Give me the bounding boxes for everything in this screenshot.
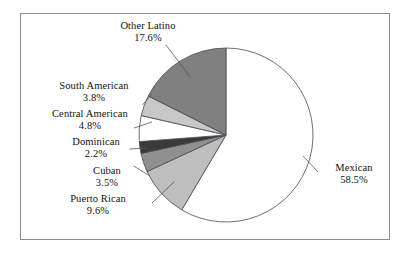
slice-label-cuban: Cuban 3.5% <box>62 165 152 189</box>
slice-label-name: Cuban <box>62 165 152 177</box>
slice-label-value: 58.5% <box>322 174 386 186</box>
slice-label-name: South American <box>35 80 153 92</box>
pie-slices-group <box>139 48 313 222</box>
slice-label-name: Other Latino <box>88 20 208 32</box>
slice-label-other-latino: Other Latino 17.6% <box>88 20 208 44</box>
slice-label-name: Mexican <box>322 162 386 174</box>
pie-chart-figure: Other Latino 17.6% South American 3.8% C… <box>0 0 411 258</box>
slice-label-value: 3.8% <box>35 92 153 104</box>
slice-label-dominican: Dominican 2.2% <box>44 136 148 160</box>
slice-label-central-american: Central American 4.8% <box>26 108 154 132</box>
slice-label-name: Puerto Rican <box>42 193 154 205</box>
slice-label-value: 4.8% <box>26 120 154 132</box>
slice-label-name: Central American <box>26 108 154 120</box>
slice-label-name: Dominican <box>44 136 148 148</box>
slice-label-south-american: South American 3.8% <box>35 80 153 104</box>
slice-label-value: 3.5% <box>62 177 152 189</box>
slice-label-value: 9.6% <box>42 205 154 217</box>
slice-label-value: 17.6% <box>88 32 208 44</box>
slice-label-mexican: Mexican 58.5% <box>322 162 386 186</box>
slice-label-puerto-rican: Puerto Rican 9.6% <box>42 193 154 217</box>
slice-label-value: 2.2% <box>44 148 148 160</box>
